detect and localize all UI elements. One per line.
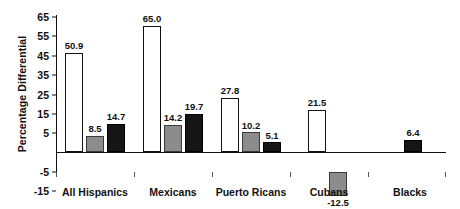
bar-mexicans-black <box>185 114 203 152</box>
bar-label-puerto-ricans-gray: 10.2 <box>242 120 261 131</box>
y-tickmark-neg15 <box>52 191 56 192</box>
bar-group-mexicans: 65.0 14.2 19.7 <box>134 17 212 172</box>
bar-puerto-ricans-black <box>263 142 281 152</box>
x-tickmark-3 <box>290 172 291 177</box>
bar-group-blacks: 6.4 <box>368 17 446 172</box>
x-axis-label-cubans: Cubans <box>310 186 349 198</box>
x-tickmark-5 <box>445 172 446 177</box>
x-axis-label-blacks: Blacks <box>393 186 427 198</box>
plot-area: 65 55 45 35 25 15 5 -5 -15 50.9 8.5 14.7 <box>56 17 446 172</box>
bar-chart: Percentage Differential 65 55 45 35 25 1… <box>0 0 460 209</box>
x-tickmark-1 <box>134 172 135 177</box>
bar-label-all-hispanics-gray: 8.5 <box>88 123 101 134</box>
bar-mexicans-gray <box>164 125 182 153</box>
bar-group-all-hispanics: 50.9 8.5 14.7 <box>56 17 134 172</box>
bar-all-hispanics-gray <box>86 136 104 153</box>
bar-all-hispanics-white <box>65 53 83 152</box>
bar-label-all-hispanics-white: 50.9 <box>65 40 84 51</box>
bar-label-mexicans-gray: 14.2 <box>164 112 183 123</box>
x-tickmark-4 <box>368 172 369 177</box>
bar-label-cubans-gray: -12.5 <box>327 197 349 208</box>
bar-label-blacks-black: 6.4 <box>406 127 419 138</box>
bar-group-cubans: 21.5 -12.5 <box>290 17 368 172</box>
bar-cubans-white <box>308 110 326 152</box>
bar-puerto-ricans-white <box>221 98 239 152</box>
bar-label-mexicans-black: 19.7 <box>185 101 204 112</box>
x-axis-label-all-hispanics: All Hispanics <box>62 186 128 198</box>
x-tickmark-0 <box>56 172 57 177</box>
bar-label-all-hispanics-black: 14.7 <box>107 111 126 122</box>
bar-label-mexicans-white: 65.0 <box>143 13 162 24</box>
bar-mexicans-white <box>143 26 161 152</box>
bar-blacks-black <box>404 140 422 152</box>
bar-group-puerto-ricans: 27.8 10.2 5.1 <box>212 17 290 172</box>
bar-label-puerto-ricans-black: 5.1 <box>265 130 278 141</box>
x-tickmark-2 <box>212 172 213 177</box>
bar-puerto-ricans-gray <box>242 132 260 152</box>
y-axis-title: Percentage Differential <box>16 14 28 174</box>
bar-label-puerto-ricans-white: 27.8 <box>221 85 240 96</box>
bar-all-hispanics-black <box>107 124 125 153</box>
x-axis-label-puerto-ricans: Puerto Ricans <box>216 186 287 198</box>
x-axis-label-mexicans: Mexicans <box>149 186 196 198</box>
bar-label-cubans-white: 21.5 <box>308 97 327 108</box>
